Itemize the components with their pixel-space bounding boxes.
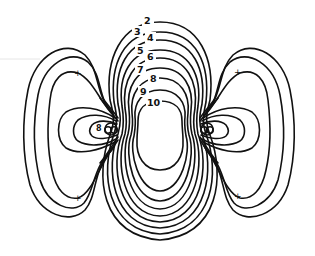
contour-label-6: 6 [147, 51, 154, 62]
right-contour-4 [203, 108, 260, 152]
left-converge-d [100, 137, 118, 163]
right-lobe-contours [200, 48, 294, 217]
left-contour-5 [74, 115, 117, 145]
contour-diagram: 2 3 4 5 6 7 8 9 10 8 + + + + [0, 0, 315, 256]
contour-10 [137, 101, 183, 170]
central-lobe-contours [103, 22, 217, 240]
plus-marker-lower-right: + [234, 191, 242, 201]
contour-label-3: 3 [134, 26, 141, 37]
contour-label-9: 9 [140, 86, 147, 97]
plus-marker-upper-left: + [74, 68, 82, 78]
plus-marker-lower-left: + [74, 193, 82, 203]
contour-label-8: 8 [150, 73, 157, 84]
plus-marker-upper-right: + [234, 67, 242, 77]
contour-label-4: 4 [147, 32, 154, 43]
contour-6 [121, 58, 199, 216]
right-contour-outer [206, 48, 294, 217]
contour-label-7: 7 [137, 64, 144, 75]
left-contour-3 [48, 72, 114, 198]
inner-contour-label: 8 [96, 124, 102, 133]
contour-label-2: 2 [144, 15, 151, 26]
contour-label-5: 5 [137, 45, 144, 56]
contour-svg: 2 3 4 5 6 7 8 9 10 8 + + + + [0, 0, 315, 256]
contour-label-10: 10 [147, 97, 161, 108]
right-contour-3 [204, 72, 270, 198]
contour-7 [125, 68, 195, 209]
